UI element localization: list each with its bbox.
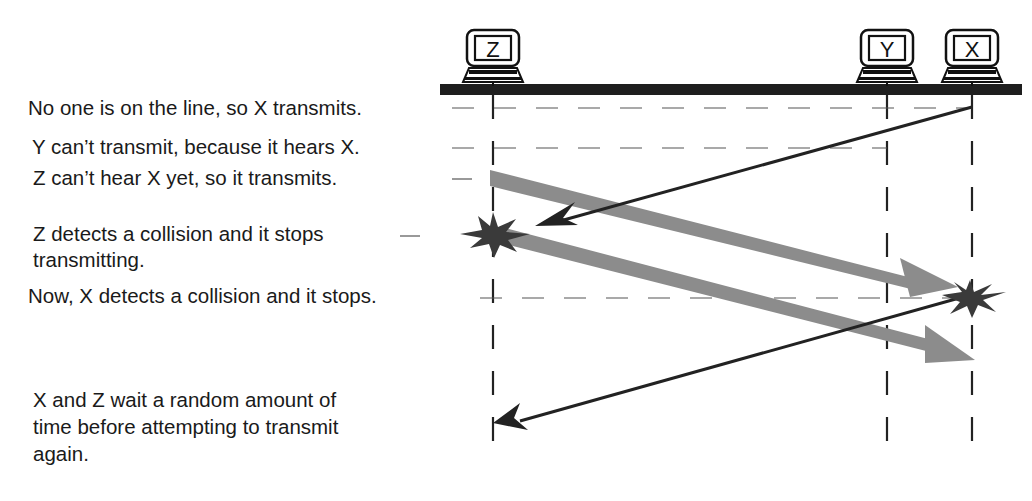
collision-burst-z-icon	[460, 212, 530, 258]
node-y-label: Y	[880, 37, 895, 62]
event-label-z-detects-line2: transmitting.	[33, 248, 145, 271]
signal-z-tail	[505, 228, 975, 363]
event-label-x-detects: Now, X detects a collision and it stops.	[28, 284, 377, 307]
computer-y-icon: Y	[857, 30, 917, 86]
signal-x-tail	[493, 295, 970, 430]
event-label-backoff-line1: X and Z wait a random amount of	[33, 388, 336, 411]
event-label-y-waits: Y can’t transmit, because it hears X.	[32, 135, 360, 158]
computer-z-icon: Z	[463, 30, 523, 86]
network-bus	[440, 84, 1022, 95]
event-label-x-transmits: No one is on the line, so X transmits.	[28, 96, 362, 119]
event-label-backoff-line3: again.	[33, 442, 89, 465]
node-z-label: Z	[486, 37, 499, 62]
event-label-z-detects-line1: Z detects a collision and it stops	[33, 222, 324, 245]
computer-x-icon: X	[942, 30, 1002, 86]
event-label-z-transmits: Z can’t hear X yet, so it transmits.	[33, 166, 337, 189]
node-x-label: X	[965, 37, 980, 62]
event-label-backoff-line2: time before attempting to transmit	[33, 415, 338, 438]
